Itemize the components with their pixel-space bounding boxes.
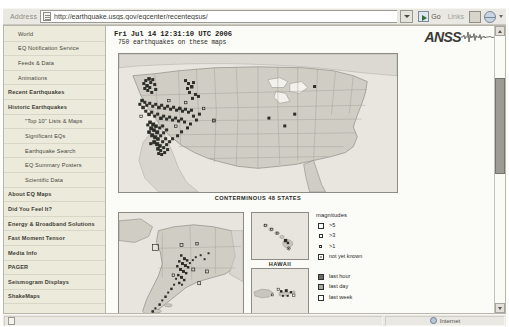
- sidebar-item-label: Energy & Broadband Solutions: [8, 221, 95, 227]
- sidebar-item-eq-summary-posters[interactable]: EQ Summary Posters: [4, 158, 105, 173]
- map-alaska-graphic: [119, 213, 243, 313]
- square-large-open-icon: [316, 223, 325, 229]
- legend-label: >5: [329, 223, 335, 229]
- sidebar-item-label: EQ Notification Service: [18, 45, 79, 51]
- links-label[interactable]: Links: [446, 13, 466, 20]
- status-zone-label: Internet: [440, 318, 460, 324]
- scroll-down-arrow-icon: [498, 307, 502, 310]
- scroll-up-button[interactable]: [495, 26, 505, 36]
- sidebar-item-media-info[interactable]: Media Info: [4, 246, 105, 261]
- square-medium-open-icon: [316, 234, 325, 238]
- main-panel: Fri Jul 14 12:31:10 UTC 2006 750 earthqu…: [106, 26, 505, 313]
- seismograph-trace-icon: [461, 30, 495, 44]
- sidebar-item-label: ShakeMaps: [8, 293, 40, 299]
- map-48-graphic: [119, 54, 397, 192]
- sidebar-item-seismogram-displays[interactable]: Seismogram Displays: [4, 275, 105, 290]
- sidebar-item-historic-earthquakes[interactable]: Historic Earthquakes: [4, 100, 105, 115]
- sidebar-item-recent-earthquakes[interactable]: Recent Earthquakes: [4, 85, 105, 100]
- address-input[interactable]: http://earthquake.usgs.gov/eqcenter/rece…: [40, 10, 397, 23]
- page-content: World EQ Notification Service Feeds & Da…: [3, 25, 506, 314]
- address-url-text: http://earthquake.usgs.gov/eqcenter/rece…: [54, 13, 208, 20]
- chevron-down-icon: [404, 15, 410, 18]
- sidebar-item-label: About EQ Maps: [8, 191, 52, 197]
- legend-label: >1: [329, 244, 335, 250]
- map-caption-conterminous: CONTERMINOUS 48 STATES: [118, 195, 398, 201]
- square-dot-open-icon: [316, 254, 325, 260]
- legend-row-last-hour: last hour: [316, 272, 392, 281]
- sidebar-item-label: Did You Feel It?: [8, 206, 52, 212]
- map-conterminous-48-states[interactable]: [118, 53, 398, 193]
- sidebar-item-label: Earthquake Search: [25, 148, 75, 154]
- header-text-block: Fri Jul 14 12:31:10 UTC 2006 750 earthqu…: [114, 29, 232, 46]
- sidebar-item-energy-broadband-solutions[interactable]: Energy & Broadband Solutions: [4, 217, 105, 232]
- scrollbar-thumb[interactable]: [495, 78, 505, 174]
- status-message-cell: [4, 316, 383, 326]
- globe-icon[interactable]: [484, 11, 496, 23]
- sidebar-item-eq-notification-service[interactable]: EQ Notification Service: [4, 42, 105, 57]
- status-zone-cell[interactable]: Internet: [385, 316, 505, 326]
- sidebar-item-feeds-and-data[interactable]: Feeds & Data: [4, 56, 105, 71]
- map-legend: magnitudes >5 >3 >1 not yet known: [316, 212, 392, 304]
- scrollbar-track[interactable]: [495, 36, 505, 303]
- earthquake-count-text: 750 earthquakes on these maps: [114, 39, 232, 46]
- map-puerto-rico[interactable]: [251, 268, 309, 313]
- scroll-down-button[interactable]: [495, 303, 505, 313]
- square-filled-white-icon: [316, 295, 325, 301]
- sidebar-item-shakemaps[interactable]: ShakeMaps: [4, 290, 105, 305]
- sidebar-item-pager[interactable]: PAGER: [4, 261, 105, 276]
- go-button[interactable]: Go: [416, 11, 442, 22]
- page-icon: [43, 12, 51, 21]
- vertical-scrollbar[interactable]: [494, 26, 505, 313]
- sidebar-item-fast-moment-tensor[interactable]: Fast Moment Tensor: [4, 231, 105, 246]
- legend-label: last hour: [329, 274, 350, 280]
- sidebar-item-earthquake-search[interactable]: Earthquake Search: [4, 144, 105, 159]
- sidebar-item-label: Scientific Data: [25, 177, 63, 183]
- anss-logo: ANSS: [425, 29, 496, 44]
- legend-title-magnitudes: magnitudes: [316, 212, 392, 218]
- internet-zone-icon: [430, 317, 437, 324]
- sidebar-item-label: Recent Earthquakes: [8, 89, 64, 95]
- sidebar-item-label: EQ Summary Posters: [25, 162, 82, 168]
- document-icon: [8, 317, 15, 325]
- sidebar-item-label: World: [18, 31, 33, 37]
- legend-label: last week: [329, 295, 352, 301]
- sidebar-item-animations[interactable]: Animations: [4, 71, 105, 86]
- legend-label: last day: [329, 284, 348, 290]
- map-hawaii-graphic: [252, 213, 308, 259]
- sidebar-item-world[interactable]: World: [4, 27, 105, 42]
- map-alaska[interactable]: [118, 212, 244, 313]
- window-title-strip: [0, 0, 509, 8]
- map-caption-hawaii: HAWAII: [251, 261, 309, 267]
- sidebar-item-top-10-lists-and-maps[interactable]: "Top 10" Lists & Maps: [4, 115, 105, 130]
- map-hawaii[interactable]: [251, 212, 309, 260]
- sidebar-item-label: Media Info: [8, 250, 37, 256]
- address-dropdown-button[interactable]: [400, 10, 413, 23]
- scroll-up-arrow-icon: [498, 30, 502, 33]
- square-filled-gray-icon: [316, 284, 325, 290]
- address-label: Address: [6, 13, 37, 20]
- anss-logo-text: ANSS: [425, 30, 462, 44]
- sidebar-navigation: World EQ Notification Service Feeds & Da…: [4, 26, 106, 313]
- map-puerto-rico-graphic: [252, 269, 308, 313]
- square-filled-dark-icon: [316, 274, 325, 280]
- sidebar-item-label: Fast Moment Tensor: [8, 235, 65, 241]
- legend-label: not yet known: [329, 254, 362, 260]
- go-arrow-icon: [418, 11, 429, 22]
- toolbar-button-icon[interactable]: [469, 11, 481, 23]
- sidebar-item-significant-eqs[interactable]: Significant EQs: [4, 129, 105, 144]
- legend-label: >3: [329, 233, 335, 239]
- address-toolbar: Address http://earthquake.usgs.gov/eqcen…: [3, 8, 506, 25]
- sidebar-item-scientific-data[interactable]: Scientific Data: [4, 173, 105, 188]
- legend-row-mag-gt1: >1: [316, 242, 392, 251]
- sidebar-item-label: PAGER: [8, 264, 28, 270]
- sidebar-item-label: Animations: [18, 75, 47, 81]
- timestamp-text: Fri Jul 14 12:31:10 UTC 2006: [114, 30, 232, 38]
- toolbar-chevron-down-icon[interactable]: [499, 15, 503, 18]
- sidebar-item-did-you-feel-it[interactable]: Did You Feel It?: [4, 202, 105, 217]
- legend-row-mag-gt5: >5: [316, 221, 392, 230]
- go-label: Go: [431, 13, 440, 20]
- sidebar-item-label: Feeds & Data: [18, 60, 54, 66]
- status-bar: Internet: [3, 314, 506, 326]
- legend-row-mag-gt3: >3: [316, 232, 392, 241]
- sidebar-item-about-eq-maps[interactable]: About EQ Maps: [4, 188, 105, 203]
